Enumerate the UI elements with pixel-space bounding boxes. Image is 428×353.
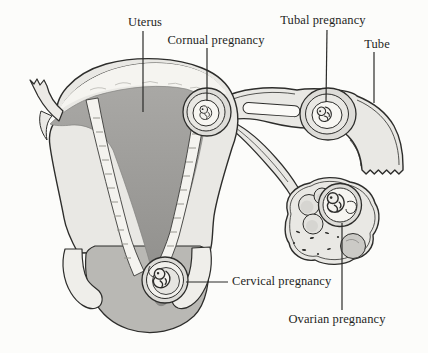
- corpus-luteum: [341, 234, 366, 259]
- tubal-pregnancy-label: Tubal pregnancy: [280, 14, 365, 28]
- follicle-shade: [306, 220, 318, 232]
- cervical-pregnancy-sac: [142, 257, 188, 303]
- cervical-pregnancy-label: Cervical pregnancy: [232, 275, 331, 289]
- cornual-pregnancy-label: Cornual pregnancy: [167, 34, 264, 48]
- tube-label: Tube: [364, 38, 390, 52]
- ovarian-embryo: [327, 193, 344, 212]
- ovarian-ligament-group: [230, 122, 299, 196]
- cornual-embryo: [200, 106, 212, 120]
- ovarian-pregnancy-sac: [319, 184, 362, 227]
- anatomy-illustration: [0, 0, 428, 353]
- follicle-shade: [301, 201, 314, 214]
- figure-ectopic-pregnancy-sites: Uterus Cornual pregnancy Tubal pregnancy…: [0, 0, 428, 353]
- ovarian-ligament: [230, 122, 299, 196]
- uterus-label: Uterus: [128, 16, 162, 30]
- tubal-pregnancy-sac: [300, 88, 356, 140]
- ovarian-pregnancy-label: Ovarian pregnancy: [288, 313, 385, 327]
